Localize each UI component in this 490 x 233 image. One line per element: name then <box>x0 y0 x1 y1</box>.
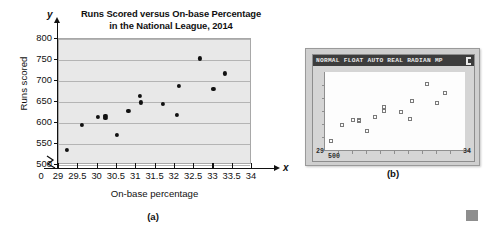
y-axis-title: Runs scored <box>18 41 29 127</box>
y-axis-variable-label: y <box>47 9 53 20</box>
calculator-status-bar: NORMAL FLOAT AUTO REAL RADIAN MP <box>313 55 474 66</box>
chart-title-line-2: in the National League, 2014 <box>55 20 287 32</box>
x-axis-tick-mark <box>174 163 175 168</box>
x-axis-arrow-icon <box>274 165 280 171</box>
calculator-x-tick <box>352 151 353 154</box>
calculator-y-tick <box>322 124 325 125</box>
calculator-data-point <box>443 91 447 95</box>
calculator-y-tick <box>322 98 325 99</box>
panel-a-caption: (a) <box>118 211 188 222</box>
panel-b-calculator: NORMAL FLOAT AUTO REAL RADIAN MP 800 29 … <box>305 48 480 178</box>
gridline <box>59 39 250 40</box>
corner-marker <box>466 210 478 221</box>
calculator-x-tick <box>394 151 395 154</box>
data-point <box>96 115 100 119</box>
calculator-x-tick <box>450 151 451 154</box>
x-axis-tick-mark <box>97 163 98 168</box>
calculator-data-point <box>399 110 403 114</box>
x-axis-line <box>44 168 274 169</box>
calculator-y-min-label: 500 <box>328 153 340 160</box>
calculator-x-min-label: 29 <box>316 148 324 155</box>
data-point <box>223 71 227 75</box>
calculator-data-point <box>340 123 344 127</box>
y-axis-line <box>57 22 58 168</box>
x-axis-title: On-base percentage <box>58 188 251 199</box>
data-point <box>161 102 165 106</box>
gridline <box>59 102 250 103</box>
calculator-plot-area <box>324 72 465 150</box>
calculator-data-point <box>435 101 439 105</box>
data-point <box>80 123 84 127</box>
calculator-x-tick <box>408 151 409 154</box>
x-axis-tick-mark <box>116 163 117 168</box>
x-axis-tick-mark <box>212 163 213 168</box>
data-point <box>211 86 215 90</box>
x-axis-tick-mark <box>155 163 156 168</box>
gridline <box>59 123 250 124</box>
x-axis-tick-mark <box>193 163 194 168</box>
data-point <box>175 113 179 117</box>
calculator-x-max-label: 34 <box>463 148 471 155</box>
data-point <box>126 109 130 113</box>
calculator-data-point <box>329 139 333 143</box>
x-axis-tick-mark <box>251 163 252 168</box>
battery-icon <box>466 57 471 65</box>
panel-a-scatter-chart: Runs Scored versus On-base Percentage in… <box>0 0 320 233</box>
y-axis-tick-label: 600 <box>26 116 52 127</box>
gridline <box>59 144 250 145</box>
calculator-x-tick <box>366 151 367 154</box>
calculator-data-point <box>365 129 369 133</box>
calculator-x-tick <box>422 151 423 154</box>
x-axis-tick-mark <box>58 163 59 168</box>
y-axis-arrow-icon <box>54 17 60 23</box>
calculator-x-tick <box>436 151 437 154</box>
y-axis-tick-label: 650 <box>26 95 52 106</box>
x-axis-tick-mark <box>232 163 233 168</box>
data-point <box>177 84 181 88</box>
y-axis-tick-label: 800 <box>26 32 52 43</box>
data-point <box>65 148 69 152</box>
calculator-data-point <box>357 119 361 123</box>
calculator-x-axis-line <box>324 150 470 151</box>
calculator-data-point <box>408 117 412 121</box>
calculator-y-tick <box>322 137 325 138</box>
calculator-data-point <box>382 109 386 113</box>
x-axis-tick-mark <box>77 163 78 168</box>
calculator-data-point <box>351 118 355 122</box>
calculator-screen: NORMAL FLOAT AUTO REAL RADIAN MP 800 29 … <box>312 54 475 162</box>
y-axis-tick-label: 700 <box>26 74 52 85</box>
calculator-data-point <box>373 115 377 119</box>
calculator-y-tick <box>322 111 325 112</box>
axis-break-zigzag-icon <box>46 155 62 171</box>
calculator-data-point <box>425 82 429 86</box>
data-point <box>138 94 142 98</box>
data-point <box>103 116 107 120</box>
calculator-bezel: NORMAL FLOAT AUTO REAL RADIAN MP 800 29 … <box>305 48 480 166</box>
chart-title: Runs Scored versus On-base Percentage in… <box>55 8 287 33</box>
panel-b-caption: (b) <box>358 168 428 179</box>
calculator-y-tick <box>322 85 325 86</box>
data-point <box>139 100 143 104</box>
chart-title-line-1: Runs Scored versus On-base Percentage <box>81 8 261 19</box>
x-axis-tick-label: 34 <box>234 170 268 181</box>
data-point <box>115 133 119 137</box>
x-axis-tick-mark <box>135 163 136 168</box>
calculator-status-text: NORMAL FLOAT AUTO REAL RADIAN MP <box>316 57 443 64</box>
plot-area <box>58 38 251 164</box>
x-axis-variable-label: x <box>283 162 289 173</box>
gridline <box>59 81 250 82</box>
calculator-data-point <box>410 99 414 103</box>
y-axis-tick-label: 750 <box>26 53 52 64</box>
y-axis-tick-label: 550 <box>26 137 52 148</box>
gridline <box>59 60 250 61</box>
figure-container: Runs Scored versus On-base Percentage in… <box>0 0 490 233</box>
calculator-x-tick <box>380 151 381 154</box>
